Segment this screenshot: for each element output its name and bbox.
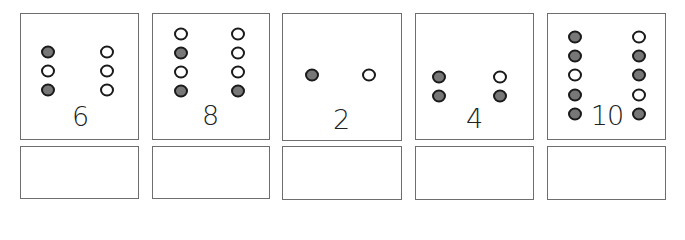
filled-dot-icon [568, 89, 582, 102]
card-number: 8 [202, 102, 218, 129]
empty-dot-icon [231, 28, 245, 41]
filled-dot-icon [568, 50, 582, 63]
card-number: 10 [591, 102, 623, 129]
empty-dot-icon [568, 69, 582, 82]
empty-dot-icon [41, 65, 55, 78]
filled-dot-icon [493, 90, 507, 103]
filled-dot-icon [231, 85, 245, 98]
answer-box-4[interactable] [415, 146, 534, 200]
filled-dot-icon [41, 84, 55, 97]
empty-dot-icon [231, 66, 245, 79]
card-number: 4 [466, 105, 482, 132]
filled-dot-icon [632, 108, 646, 121]
filled-dot-icon [305, 69, 319, 82]
empty-dot-icon [493, 71, 507, 84]
filled-dot-icon [41, 46, 55, 59]
filled-dot-icon [568, 31, 582, 44]
empty-dot-icon [100, 46, 114, 59]
filled-dot-icon [174, 85, 188, 98]
filled-dot-icon [632, 50, 646, 63]
empty-dot-icon [100, 65, 114, 78]
filled-dot-icon [568, 108, 582, 121]
empty-dot-icon [100, 84, 114, 97]
filled-dot-icon [174, 47, 188, 60]
card-number: 2 [333, 106, 349, 133]
filled-dot-icon [432, 71, 446, 84]
answer-box-1[interactable] [20, 146, 139, 199]
answer-box-5[interactable] [547, 146, 666, 200]
filled-dot-icon [632, 69, 646, 82]
answer-box-3[interactable] [282, 146, 402, 200]
empty-dot-icon [174, 28, 188, 41]
filled-dot-icon [432, 90, 446, 103]
empty-dot-icon [174, 66, 188, 79]
empty-dot-icon [632, 89, 646, 102]
empty-dot-icon [632, 31, 646, 44]
empty-dot-icon [231, 47, 245, 60]
answer-box-2[interactable] [152, 146, 270, 199]
card-number: 6 [72, 103, 88, 130]
empty-dot-icon [362, 69, 376, 82]
